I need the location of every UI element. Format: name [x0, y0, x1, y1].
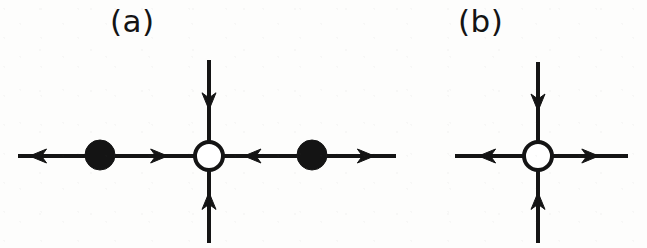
- vertex-diagram-canvas: [0, 0, 647, 248]
- panel-label-a: (a): [110, 6, 155, 37]
- node-a-right-filled: [297, 140, 327, 170]
- node-b-center-open: [524, 142, 552, 170]
- node-a-left-filled: [85, 140, 115, 170]
- panel-a-group: [18, 60, 396, 243]
- node-a-center-open: [195, 142, 223, 170]
- figure-root: (a) (b): [0, 0, 647, 248]
- panel-label-b: (b): [458, 6, 503, 37]
- panel-b-group: [455, 62, 628, 243]
